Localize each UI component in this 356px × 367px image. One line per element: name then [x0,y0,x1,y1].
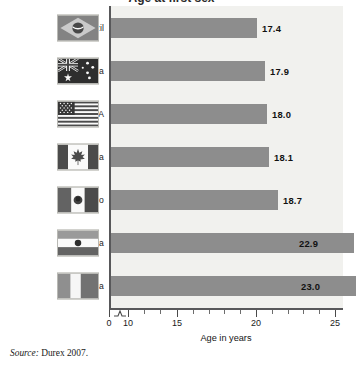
flag-india-icon [57,229,99,256]
x-tick-minor [288,310,289,314]
x-tick-label: 25 [330,318,340,328]
x-tick-major [256,310,257,317]
bar [111,147,269,167]
bar-value-label: 17.9 [270,65,289,76]
table-row: India 22.9 [43,221,343,264]
source-note-value: Durex 2007. [39,348,88,358]
source-note: Source: Durex 2007. [10,348,88,358]
x-tick-label: 20 [251,318,261,328]
x-tick-minor [319,310,320,314]
chart-title-truncated: Age at first sex [0,0,343,5]
x-tick-major [128,310,129,317]
table-row: Malaysia 23.0 [43,264,343,307]
bar-value-label: 23.0 [301,280,320,291]
x-axis-title: Age in years [109,333,343,343]
table-row: Canada 18.1 [43,135,343,178]
bar [111,61,265,81]
x-tick-minor [144,310,145,314]
bar [111,190,278,210]
table-row: Mexico 18.7 [43,178,343,221]
axis-break-marker [113,304,127,313]
x-tick-minor [240,310,241,314]
chart-title-text: Age at first sex [128,0,214,5]
flag-mexico-icon [57,186,99,213]
bar-value-label: 17.4 [262,22,281,33]
table-row: Brazil 17.4 [43,6,343,49]
x-tick-major [177,310,178,317]
x-tick-label: 0 [106,318,111,328]
x-tick-minor [303,310,304,314]
flag-australia-icon [57,57,99,84]
flag-usa-icon [57,100,99,127]
table-row: USA [43,92,343,135]
x-tick-label: 10 [123,318,133,328]
x-tick-major [109,310,110,317]
flag-brazil-icon [57,14,99,41]
x-tick-minor [224,310,225,314]
flag-malaysia-icon [57,272,99,299]
source-note-prefix: Source: [10,348,39,358]
x-tick-major [335,310,336,317]
x-tick-minor [209,310,210,314]
table-row: Australia [43,49,343,92]
bar-chart: Brazil 17.4 Australia [43,6,343,336]
bar [111,18,257,38]
x-tick-minor [160,310,161,314]
x-tick-minor [272,310,273,314]
bar-value-label: 18.1 [274,151,293,162]
bar-value-label: 18.7 [283,194,302,205]
flag-canada-icon [57,143,99,170]
x-tick-minor [193,310,194,314]
bar-value-label: 18.0 [272,108,291,119]
bar [111,104,267,124]
bar-value-label: 22.9 [299,237,318,248]
x-tick-label: 15 [172,318,182,328]
